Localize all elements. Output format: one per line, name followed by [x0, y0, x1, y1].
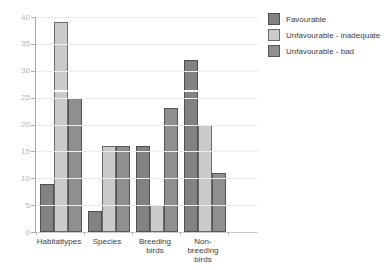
bar-unfavourable-inadequate-breeding-birds	[150, 205, 164, 232]
y-axis-tick	[31, 98, 36, 99]
gridline	[36, 151, 258, 152]
category-label-line: Species	[83, 237, 131, 246]
gridline	[36, 125, 258, 126]
white-line-artifact	[36, 90, 228, 92]
category-label-line: Breeding	[131, 237, 179, 246]
bar-unfavourable-bad-non-breeding-birds	[212, 173, 226, 232]
bar-favourable-non-breeding-birds	[184, 60, 198, 232]
category-label-line: Habitattypes	[35, 237, 83, 246]
gridline	[36, 98, 258, 99]
y-tick-label: 15	[4, 147, 30, 156]
y-axis-tick	[31, 151, 36, 152]
gridline	[36, 44, 258, 45]
x-axis-tick	[228, 232, 229, 235]
legend-label-unfavourable-inadequate: Unfavourable - inadequate	[286, 31, 380, 40]
gridline	[36, 178, 258, 179]
category-label-non-breeding-birds: Non-breedingbirds	[179, 237, 227, 264]
x-axis-tick	[36, 232, 37, 235]
x-axis-tick	[84, 232, 85, 235]
category-label-line: Non-breeding	[179, 237, 227, 255]
legend-item-unfavourable-bad: Unfavourable - bad	[268, 45, 380, 57]
y-tick-label: 5	[4, 201, 30, 210]
y-tick-label: 0	[4, 228, 30, 237]
bar-unfavourable-inadequate-species	[102, 146, 116, 232]
bar-unfavourable-bad-species	[116, 146, 130, 232]
gridline	[36, 71, 258, 72]
y-axis-tick	[31, 205, 36, 206]
y-axis-tick	[31, 71, 36, 72]
plot-area	[35, 17, 258, 233]
legend-label-unfavourable-bad: Unfavourable - bad	[286, 47, 354, 56]
y-tick-label: 10	[4, 174, 30, 183]
gridline	[36, 17, 258, 18]
category-label-line: birds	[131, 246, 179, 255]
legend-swatch-favourable	[268, 13, 280, 25]
x-axis-labels: HabitattypesSpeciesBreedingbirdsNon-bree…	[35, 237, 227, 264]
bar-unfavourable-bad-breeding-birds	[164, 108, 178, 232]
bar-favourable-habitattypes	[40, 184, 54, 232]
legend-swatch-unfavourable-inadequate	[268, 29, 280, 41]
x-axis-tick	[132, 232, 133, 235]
category-label-habitattypes: Habitattypes	[35, 237, 83, 264]
y-tick-label: 35	[4, 39, 30, 48]
y-axis-tick	[31, 125, 36, 126]
bar-favourable-species	[88, 211, 102, 233]
y-tick-label: 25	[4, 93, 30, 102]
y-axis-tick	[31, 17, 36, 18]
y-axis-tick	[31, 44, 36, 45]
bar-unfavourable-inadequate-habitattypes	[54, 22, 68, 232]
x-axis-tick	[180, 232, 181, 235]
bar-unfavourable-bad-habitattypes	[68, 98, 82, 232]
gridline	[36, 205, 258, 206]
category-label-species: Species	[83, 237, 131, 264]
y-axis-tick	[31, 178, 36, 179]
legend-label-favourable: Favourable	[286, 15, 326, 24]
bar-favourable-breeding-birds	[136, 146, 150, 232]
legend: FavourableUnfavourable - inadequateUnfav…	[268, 13, 380, 61]
y-tick-label: 20	[4, 120, 30, 129]
y-tick-label: 40	[4, 13, 30, 22]
category-label-breeding-birds: Breedingbirds	[131, 237, 179, 264]
legend-swatch-unfavourable-bad	[268, 45, 280, 57]
bar-chart: HabitattypesSpeciesBreedingbirdsNon-bree…	[0, 0, 391, 270]
category-label-line: birds	[179, 255, 227, 264]
y-tick-label: 30	[4, 66, 30, 75]
legend-item-favourable: Favourable	[268, 13, 380, 25]
legend-item-unfavourable-inadequate: Unfavourable - inadequate	[268, 29, 380, 41]
